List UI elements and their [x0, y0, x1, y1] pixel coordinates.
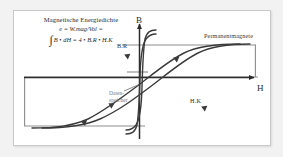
datenspeicher-label: Daten- speicher [109, 90, 128, 104]
formula-integrand: B • dH = 4 • B.R • H.K [54, 36, 113, 43]
formula-line-1: Magnetische Energiedichte [22, 16, 140, 24]
direction-arrowheads [80, 51, 209, 126]
arrow-lower-right [201, 103, 209, 111]
x-axis-label: H [257, 83, 264, 93]
datenspeicher-line-1: Daten- [109, 90, 128, 97]
permanentmagnete-label: Permanentmagnete [204, 32, 253, 39]
y-axis-label: B [136, 15, 142, 25]
hysteresis-figure-panel: Magnetische Energiedichte e = W.mag/Vol … [13, 10, 271, 146]
datenspeicher-line-2: speicher [109, 97, 128, 104]
formula-line-2: e = W.mag/Vol = [22, 25, 140, 32]
remanence-label: B.R [117, 42, 127, 49]
integral-sign: ∫ [50, 33, 53, 47]
coercivity-label: H.K [190, 97, 201, 104]
arrow-upper-left [124, 51, 132, 59]
